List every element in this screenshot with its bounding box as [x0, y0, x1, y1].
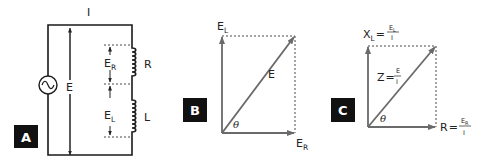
panel-a-badge: A [14, 125, 38, 148]
svg-text:EL: EL [389, 24, 396, 33]
inductor-voltage-label: EL [104, 109, 116, 124]
ac-source-icon [39, 76, 57, 94]
top-wire [48, 25, 132, 76]
bottom-wire [48, 94, 132, 155]
resistor-voltage-label: ER [104, 57, 116, 72]
svg-text:ER: ER [461, 117, 469, 126]
resistor-label: R [144, 58, 152, 71]
inductor-voltage-vector-label: EL [217, 20, 229, 35]
svg-text:I: I [391, 34, 393, 42]
reactance-formula: XL= EL I [363, 24, 399, 43]
resistance-formula: R= ER I [440, 117, 471, 137]
svg-text:I: I [463, 129, 465, 137]
impedance-vector [368, 47, 435, 127]
panel-c-impedance-triangle: XL= EL I Z= E I R= ER I θ C [331, 24, 471, 137]
svg-text:Z=: Z= [377, 71, 395, 84]
source-voltage-label: E [66, 81, 73, 94]
svg-text:E: E [396, 67, 400, 75]
phase-angle-label: θ [380, 113, 386, 124]
current-label: I [87, 6, 90, 19]
resistor-coil-icon [132, 45, 136, 80]
inductor-coil-icon [132, 98, 136, 137]
resultant-voltage-vector-label: E [268, 68, 275, 81]
panel-c-badge: C [331, 98, 355, 122]
panel-b-badge: B [183, 98, 207, 122]
svg-text:XL=: XL= [363, 28, 385, 43]
impedance-formula: Z= E I [377, 67, 401, 86]
resistor-voltage-vector-label: ER [296, 137, 308, 152]
svg-text:I: I [396, 78, 398, 86]
svg-text:B: B [190, 103, 200, 118]
phase-angle-label: θ [233, 119, 239, 130]
svg-text:R=: R= [440, 121, 458, 134]
inductor-label: L [144, 111, 151, 124]
svg-text:A: A [21, 130, 31, 145]
svg-text:C: C [338, 103, 348, 118]
series-rl-circuit-figure: E I ER R EL L A EL [0, 0, 483, 163]
panel-b-voltage-phasor: EL ER E θ B [183, 20, 308, 152]
panel-a-circuit: E I ER R EL L A [14, 6, 152, 155]
